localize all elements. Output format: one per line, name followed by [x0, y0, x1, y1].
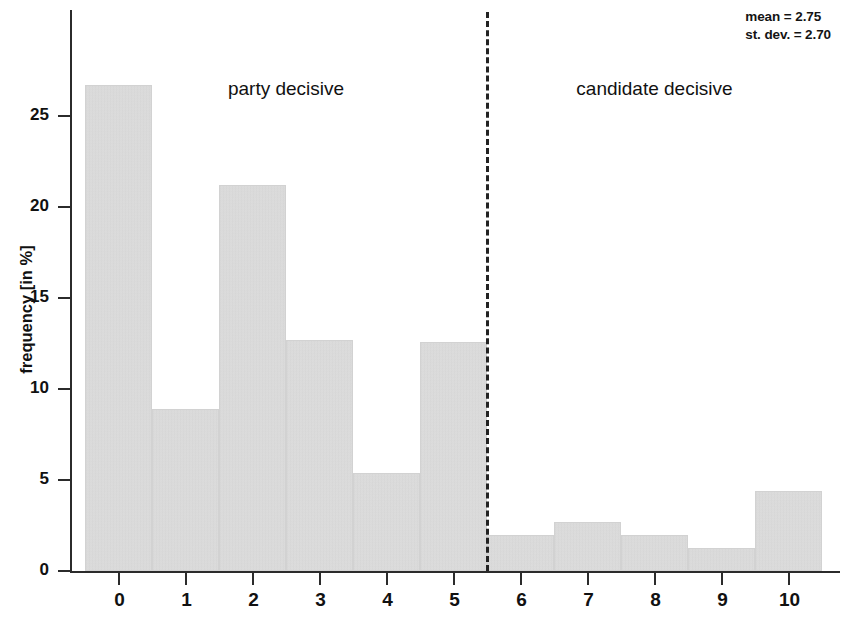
x-axis-tick	[520, 572, 522, 585]
x-axis-tick	[654, 572, 656, 585]
histogram-bar	[286, 340, 353, 571]
histogram-bar	[755, 491, 822, 571]
y-axis-tick-label: 20	[3, 196, 49, 216]
x-axis-tick	[587, 572, 589, 585]
histogram-chart: mean = 2.75 st. dev. = 2.70 frequency [i…	[0, 0, 849, 618]
x-axis-tick-label: 0	[100, 589, 140, 611]
x-axis-tick-label: 8	[636, 589, 676, 611]
x-axis-tick	[386, 572, 388, 585]
y-axis-tick-label: 0	[3, 560, 49, 580]
x-axis-tick-label: 10	[770, 589, 810, 611]
mean-label: mean = 2.75	[745, 8, 831, 26]
histogram-bar	[487, 535, 554, 571]
x-axis-tick	[453, 572, 455, 585]
x-axis-tick	[788, 572, 790, 585]
x-axis-tick-label: 6	[502, 589, 542, 611]
x-axis-tick	[118, 572, 120, 585]
y-axis-line	[70, 10, 72, 572]
stdev-label: st. dev. = 2.70	[745, 26, 831, 44]
x-axis-tick-label: 5	[435, 589, 475, 611]
x-axis-tick-label: 1	[167, 589, 207, 611]
region-label-candidate-decisive: candidate decisive	[576, 78, 732, 100]
x-axis-tick	[721, 572, 723, 585]
histogram-bar	[554, 522, 621, 571]
x-axis-tick	[185, 572, 187, 585]
y-axis-tick-label: 15	[3, 287, 49, 307]
region-label-party-decisive: party decisive	[228, 78, 344, 100]
histogram-bar	[152, 409, 219, 571]
x-axis-tick-label: 2	[234, 589, 274, 611]
y-axis-tick-label: 5	[3, 469, 49, 489]
stats-annotation: mean = 2.75 st. dev. = 2.70	[745, 8, 831, 44]
x-axis-tick	[252, 572, 254, 585]
x-axis-tick-label: 3	[301, 589, 341, 611]
y-axis-tick-label: 10	[3, 378, 49, 398]
histogram-bar	[85, 85, 152, 571]
x-axis-tick-label: 4	[368, 589, 408, 611]
y-axis-tick-label: 25	[3, 105, 49, 125]
histogram-bar	[621, 535, 688, 571]
x-axis-tick-label: 7	[569, 589, 609, 611]
histogram-bar	[420, 342, 487, 571]
histogram-bar	[353, 473, 420, 571]
x-axis-tick-label: 9	[703, 589, 743, 611]
region-divider-line	[486, 12, 489, 571]
histogram-bar	[688, 548, 755, 571]
x-axis-tick	[319, 572, 321, 585]
histogram-bar	[219, 185, 286, 571]
x-axis-line	[70, 571, 840, 573]
y-axis-title: frequency [in %]	[17, 180, 36, 440]
